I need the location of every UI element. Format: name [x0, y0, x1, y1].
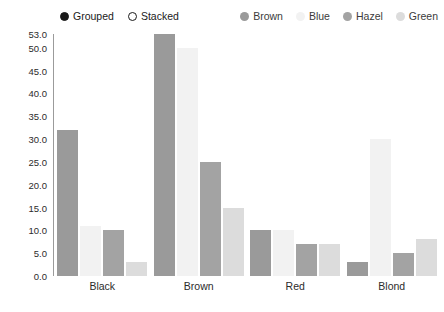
bar-blond-green[interactable]: [416, 239, 437, 276]
legend-label-brown: Brown: [253, 10, 283, 22]
mode-option-stacked-label: Stacked: [141, 10, 179, 22]
bar-black-hazel[interactable]: [103, 230, 124, 276]
bar-group-blond: [344, 34, 441, 276]
bar-brown-green[interactable]: [223, 208, 244, 276]
y-tick-label: 15.0: [29, 202, 48, 213]
y-tick-label: 0.0: [34, 271, 47, 282]
legend-swatch-hazel-icon: [343, 12, 352, 21]
bar-red-brown[interactable]: [250, 230, 271, 276]
bar-brown-hazel[interactable]: [200, 162, 221, 276]
x-tick-label-black: Black: [89, 280, 115, 292]
chart-page: Grouped Stacked Brown Blue Hazel Green 0…: [0, 0, 444, 312]
y-axis-labels: 0.05.010.015.020.025.030.035.040.045.050…: [0, 28, 53, 312]
mode-option-stacked[interactable]: Stacked: [128, 10, 179, 22]
y-tick-label: 20.0: [29, 179, 48, 190]
legend-swatch-blue-icon: [296, 12, 305, 21]
bar-brown-blue[interactable]: [177, 48, 198, 276]
legend-label-hazel: Hazel: [356, 10, 383, 22]
mode-option-grouped[interactable]: Grouped: [60, 10, 114, 22]
x-tick-label-blond: Blond: [378, 280, 405, 292]
legend-swatch-brown-icon: [240, 12, 249, 21]
y-tick-label: 30.0: [29, 134, 48, 145]
legend-label-blue: Blue: [309, 10, 330, 22]
legend-item-blue[interactable]: Blue: [296, 10, 330, 22]
bar-group-red: [247, 34, 344, 276]
y-tick-label: 53.0: [29, 29, 48, 40]
bars-container: [54, 34, 440, 276]
bar-red-hazel[interactable]: [296, 244, 317, 276]
bar-blond-blue[interactable]: [370, 139, 391, 276]
x-tick-label-red: Red: [286, 280, 305, 292]
bar-black-brown[interactable]: [57, 130, 78, 276]
radio-filled-icon[interactable]: [60, 12, 69, 21]
bar-black-blue[interactable]: [80, 226, 101, 276]
y-tick-label: 10.0: [29, 225, 48, 236]
bar-blond-brown[interactable]: [347, 262, 368, 276]
bar-mode-legend[interactable]: Grouped Stacked: [60, 10, 179, 22]
bar-black-green[interactable]: [126, 262, 147, 276]
legend-swatch-green-icon: [396, 12, 405, 21]
bar-red-blue[interactable]: [273, 230, 294, 276]
y-tick-label: 5.0: [34, 248, 47, 259]
y-tick-label: 25.0: [29, 156, 48, 167]
radio-empty-icon[interactable]: [128, 12, 137, 21]
mode-option-grouped-label: Grouped: [73, 10, 114, 22]
y-tick-label: 40.0: [29, 88, 48, 99]
legend-item-brown[interactable]: Brown: [240, 10, 283, 22]
series-legend[interactable]: Brown Blue Hazel Green: [240, 10, 438, 22]
legend-label-green: Green: [409, 10, 438, 22]
y-tick-label: 35.0: [29, 111, 48, 122]
bar-blond-hazel[interactable]: [393, 253, 414, 276]
y-tick-label: 50.0: [29, 42, 48, 53]
bar-group-black: [54, 34, 151, 276]
legend-item-green[interactable]: Green: [396, 10, 438, 22]
x-tick-label-brown: Brown: [184, 280, 214, 292]
bar-group-brown: [151, 34, 248, 276]
plot-area: 0.05.010.015.020.025.030.035.040.045.050…: [0, 28, 444, 312]
y-tick-label: 45.0: [29, 65, 48, 76]
bar-brown-brown[interactable]: [154, 34, 175, 276]
legend-item-hazel[interactable]: Hazel: [343, 10, 383, 22]
x-axis-labels: BlackBrownRedBlond: [54, 280, 440, 300]
bar-red-green[interactable]: [319, 244, 340, 276]
